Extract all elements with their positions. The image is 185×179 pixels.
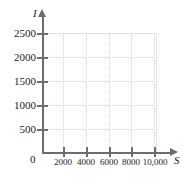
gridline-vertical-6000 [109, 33, 110, 152]
y-axis-arrow-icon [38, 9, 46, 17]
gridline-horizontal-1000 [42, 105, 157, 106]
x-axis-title: S [174, 155, 180, 166]
gridline-vertical-10000 [154, 33, 155, 152]
y-tick-1000 [37, 105, 48, 107]
x-tick-label-8000: 8000 [122, 157, 140, 167]
gridline-horizontal-1500 [42, 81, 157, 82]
gridline-vertical-8000 [131, 33, 132, 152]
x-tick-6000 [109, 147, 111, 157]
x-tick-label-2000: 2000 [54, 157, 72, 167]
chart-figure: 2500 2000 1500 1000 500 0 2000 4000 6000… [0, 0, 185, 179]
y-tick-500 [37, 129, 48, 131]
gridline-horizontal-2000 [42, 57, 157, 58]
gridline-horizontal-500 [42, 129, 157, 130]
x-tick-10000 [154, 147, 156, 157]
x-tick-label-10000: 10,000 [143, 157, 168, 167]
gridline-vertical-right-edge [156, 33, 157, 152]
y-tick-label-500: 500 [20, 124, 37, 135]
y-axis-title: I [33, 8, 37, 19]
gridline-vertical-4000 [86, 33, 87, 152]
x-tick-label-6000: 6000 [100, 157, 118, 167]
x-tick-label-4000: 4000 [77, 157, 95, 167]
origin-label: 0 [30, 154, 36, 165]
x-tick-8000 [131, 147, 133, 157]
y-tick-1500 [37, 81, 48, 83]
x-tick-2000 [63, 147, 65, 157]
y-tick-label-2500: 2500 [14, 28, 36, 39]
x-axis-line [42, 152, 172, 154]
y-tick-label-1500: 1500 [14, 76, 36, 87]
y-tick-label-2000: 2000 [14, 52, 36, 63]
y-axis-line [42, 15, 44, 152]
plot-area [42, 33, 157, 152]
gridline-vertical-2000 [63, 33, 64, 152]
y-tick-2500 [37, 33, 48, 35]
gridline-horizontal-2500 [42, 33, 157, 34]
y-tick-label-1000: 1000 [14, 100, 36, 111]
x-tick-4000 [86, 147, 88, 157]
y-tick-2000 [37, 57, 48, 59]
